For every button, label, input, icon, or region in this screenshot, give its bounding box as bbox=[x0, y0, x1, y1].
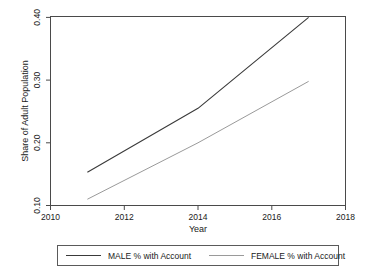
chart-figure: 0.10 0.20 0.30 0.40 Share of Adult Popul… bbox=[0, 0, 365, 275]
y-tick-label-2: 0.30 bbox=[32, 72, 42, 89]
x-axis-title: Year bbox=[189, 224, 207, 234]
x-tick-label-2: 2014 bbox=[189, 212, 208, 222]
plot-frame bbox=[51, 17, 346, 206]
x-tick-label-3: 2016 bbox=[262, 212, 281, 222]
y-axis-title: Share of Adult Population bbox=[20, 60, 30, 162]
y-axis-ticks bbox=[46, 17, 51, 205]
y-tick-label-1: 0.20 bbox=[32, 134, 42, 151]
series-line-female bbox=[87, 81, 308, 199]
legend: MALE % with Account FEMALE % with Accoun… bbox=[58, 246, 346, 266]
series-line-male bbox=[87, 17, 308, 172]
x-tick-label-1: 2012 bbox=[115, 212, 134, 222]
y-tick-label-3: 0.40 bbox=[32, 9, 42, 26]
legend-label-female: FEMALE % with Account bbox=[251, 251, 346, 261]
x-axis-ticks bbox=[51, 206, 346, 211]
series-group bbox=[87, 17, 308, 199]
x-tick-label-0: 2010 bbox=[41, 212, 60, 222]
x-tick-label-4: 2018 bbox=[336, 212, 355, 222]
legend-label-male: MALE % with Account bbox=[108, 251, 192, 261]
